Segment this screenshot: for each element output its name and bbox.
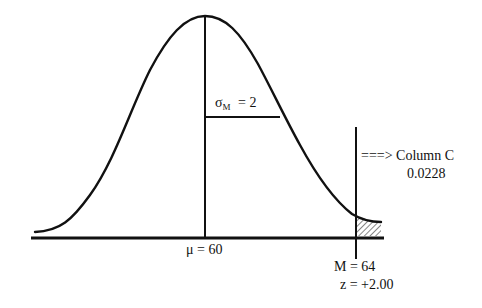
sigma-subscript: M: [223, 102, 231, 112]
z-score-label: z = +2.00: [340, 277, 394, 293]
sample-mean-label: M = 64: [334, 259, 375, 275]
sigma-symbol: σ: [215, 95, 223, 110]
arrow-column-c-label: ===> Column C: [361, 148, 454, 164]
sigma-label: σM = 2: [215, 95, 256, 115]
bell-curve: [35, 16, 381, 232]
tail-proportion-value: 0.0228: [407, 166, 446, 182]
sigma-value: = 2: [235, 95, 257, 110]
mean-label: μ = 60: [186, 242, 222, 258]
